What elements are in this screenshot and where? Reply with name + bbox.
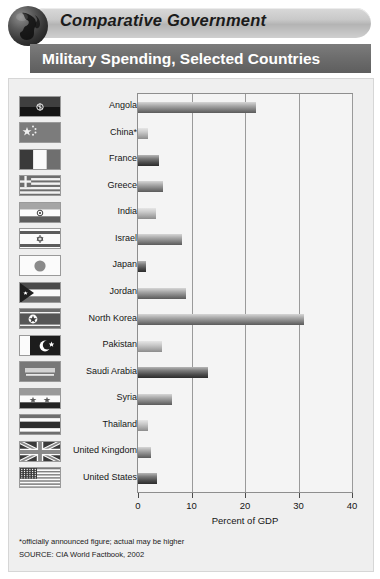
- flag-japan-icon: [19, 255, 61, 276]
- country-label: China*: [63, 127, 137, 137]
- infographic-card: Comparative Government Military Spending…: [0, 0, 380, 579]
- bar-india: [138, 208, 156, 219]
- plot-area: [137, 93, 353, 493]
- footnote: *officially announced figure; actual may…: [19, 537, 184, 546]
- country-label: France: [63, 153, 137, 163]
- country-label: United States: [63, 472, 137, 482]
- flag-north-korea-icon: [19, 308, 61, 329]
- bar-greece: [138, 181, 163, 192]
- bar-united-states: [138, 473, 157, 484]
- country-label: India: [63, 206, 137, 216]
- x-tick-label: 10: [177, 500, 207, 511]
- bar-france: [138, 155, 159, 166]
- chart-title-bar: Military Spending, Selected Countries: [30, 44, 371, 73]
- country-label: Israel: [63, 233, 137, 243]
- x-tick-0: [138, 493, 139, 498]
- country-label: Jordan: [63, 286, 137, 296]
- bar-china: [138, 128, 148, 139]
- flag-israel-icon: [19, 228, 61, 249]
- bar-united-kingdom: [138, 447, 151, 458]
- x-tick-30: [299, 493, 300, 498]
- x-tick-20: [245, 493, 246, 498]
- x-tick-40: [352, 493, 353, 498]
- gridline-40: [352, 94, 353, 492]
- bar-jordan: [138, 288, 186, 299]
- bar-saudi-arabia: [138, 367, 208, 378]
- x-tick-label: 30: [284, 500, 314, 511]
- flag-syria-icon: [19, 388, 61, 409]
- country-label: Pakistan: [63, 339, 137, 349]
- country-label: Japan: [63, 259, 137, 269]
- country-label: United Kingdom: [63, 445, 137, 455]
- x-tick-label: 40: [337, 500, 367, 511]
- country-label: North Korea: [63, 313, 137, 323]
- gridline-10: [192, 94, 193, 492]
- chart-title: Military Spending, Selected Countries: [42, 50, 365, 68]
- country-label: Thailand: [63, 419, 137, 429]
- bar-north-korea: [138, 314, 304, 325]
- flag-united-states-icon: [19, 467, 61, 488]
- gridline-20: [245, 94, 246, 492]
- flag-saudi-arabia-icon: [19, 361, 61, 382]
- banner-title: Comparative Government: [60, 11, 360, 30]
- bar-angola: [138, 102, 256, 113]
- country-label: Saudi Arabia: [63, 366, 137, 376]
- flag-pakistan-icon: [19, 335, 61, 356]
- x-tick-label: 0: [123, 500, 153, 511]
- flag-france-icon: [19, 149, 61, 170]
- flag-india-icon: [19, 202, 61, 223]
- source-note: SOURCE: CIA World Factbook, 2002: [19, 550, 144, 559]
- x-tick-label: 20: [230, 500, 260, 511]
- bar-syria: [138, 394, 172, 405]
- x-tick-10: [192, 493, 193, 498]
- flag-jordan-icon: [19, 282, 61, 303]
- bar-pakistan: [138, 341, 162, 352]
- bar-israel: [138, 234, 182, 245]
- country-label: Syria: [63, 392, 137, 402]
- country-label: Greece: [63, 180, 137, 190]
- x-axis-title: Percent of GDP: [137, 515, 353, 526]
- bar-thailand: [138, 420, 148, 431]
- gridline-30: [299, 94, 300, 492]
- flag-china-icon: [19, 122, 61, 143]
- flag-angola-icon: [19, 96, 61, 117]
- bar-chart: AngolaChina*FranceGreeceIndiaIsraelJapan…: [9, 79, 373, 571]
- flag-thailand-icon: [19, 414, 61, 435]
- flag-united-kingdom-icon: [19, 441, 61, 462]
- chart-card: AngolaChina*FranceGreeceIndiaIsraelJapan…: [8, 78, 374, 572]
- bar-japan: [138, 261, 146, 272]
- globe-icon: [8, 6, 48, 46]
- flag-greece-icon: [19, 175, 61, 196]
- country-label: Angola: [63, 100, 137, 110]
